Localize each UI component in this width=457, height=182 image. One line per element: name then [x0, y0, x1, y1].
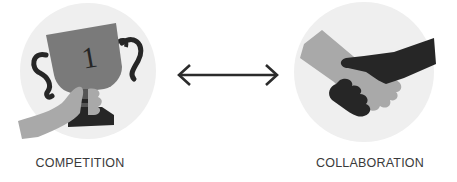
double-arrow-icon — [174, 60, 282, 90]
handshake-illustration — [294, 2, 438, 146]
connector — [174, 60, 282, 90]
collaboration-label: COLLABORATION — [300, 156, 440, 170]
trophy-illustration: 1 — [18, 3, 158, 143]
competition-panel: 1 COMPETITION — [0, 0, 180, 182]
trophy-hand-icon: 1 — [18, 3, 158, 143]
handshake-icon — [294, 2, 438, 146]
competition-label: COMPETITION — [20, 156, 140, 170]
collaboration-panel: COLLABORATION — [280, 0, 457, 182]
